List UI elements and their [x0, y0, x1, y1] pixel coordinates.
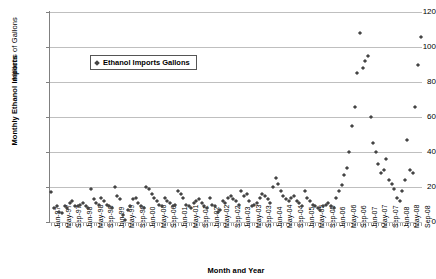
data-point — [400, 188, 404, 192]
gridline — [50, 117, 422, 118]
data-point — [390, 181, 394, 185]
data-point — [384, 157, 388, 161]
y-axis-title-units: Millions of Gallons — [10, 6, 19, 92]
data-point — [49, 190, 53, 194]
x-tick-mark — [357, 223, 358, 226]
data-point — [368, 115, 372, 119]
data-point — [247, 199, 251, 203]
data-point — [376, 162, 380, 166]
data-point — [334, 195, 338, 199]
x-tick-mark — [315, 223, 316, 226]
x-tick-mark — [136, 223, 137, 226]
x-tick-mark — [252, 223, 253, 226]
x-tick-mark — [210, 223, 211, 226]
x-tick-mark — [72, 223, 73, 226]
data-point — [273, 176, 277, 180]
x-tick-mark — [326, 223, 327, 226]
x-tick-mark — [231, 223, 232, 226]
data-point — [405, 138, 409, 142]
chart-legend: Ethanol Imports Gallons — [90, 55, 197, 70]
data-point — [411, 171, 415, 175]
gridline — [50, 12, 422, 13]
data-point — [128, 204, 132, 208]
data-point — [65, 206, 69, 210]
data-point — [142, 206, 146, 210]
legend-diamond-icon — [94, 60, 100, 66]
x-tick-mark — [273, 223, 274, 226]
data-point — [279, 188, 283, 192]
data-point — [118, 197, 122, 201]
data-point — [134, 195, 138, 199]
data-point — [239, 188, 243, 192]
data-point — [268, 201, 272, 205]
x-tick-mark — [104, 223, 105, 226]
x-tick-mark — [262, 223, 263, 226]
data-point — [70, 199, 74, 203]
x-tick-mark — [283, 223, 284, 226]
gridline — [50, 222, 422, 223]
x-tick-mark — [125, 223, 126, 226]
data-point — [361, 66, 365, 70]
x-tick-mark — [400, 223, 401, 226]
x-tick-mark — [167, 223, 168, 226]
data-point — [205, 206, 209, 210]
x-tick-label: Sep-08 — [424, 205, 431, 228]
data-point — [403, 178, 407, 182]
data-point — [308, 199, 312, 203]
data-point — [363, 59, 367, 63]
x-tick-mark — [294, 223, 295, 226]
data-point — [353, 104, 357, 108]
x-tick-mark — [83, 223, 84, 226]
gridline — [50, 187, 422, 188]
data-point — [300, 204, 304, 208]
x-tick-mark — [336, 223, 337, 226]
x-axis-title: Month and Year — [50, 266, 422, 275]
data-point — [189, 206, 193, 210]
data-point — [218, 208, 222, 212]
data-point — [355, 71, 359, 75]
data-point — [276, 181, 280, 185]
data-point — [173, 202, 177, 206]
x-tick-mark — [241, 223, 242, 226]
data-point — [366, 54, 370, 58]
x-tick-mark — [410, 223, 411, 226]
data-point — [358, 31, 362, 35]
data-point — [120, 213, 124, 217]
gridline — [50, 152, 422, 153]
x-tick-mark — [389, 223, 390, 226]
data-point — [419, 34, 423, 38]
data-point — [318, 208, 322, 212]
data-point — [60, 211, 64, 215]
x-tick-mark — [51, 223, 52, 226]
x-tick-mark — [220, 223, 221, 226]
x-tick-mark — [178, 223, 179, 226]
data-point — [160, 204, 164, 208]
data-point — [413, 104, 417, 108]
data-point — [86, 206, 90, 210]
x-tick-mark — [157, 223, 158, 226]
data-point — [181, 195, 185, 199]
x-tick-mark — [347, 223, 348, 226]
data-point — [207, 195, 211, 199]
data-point — [347, 150, 351, 154]
data-point — [331, 206, 335, 210]
x-tick-mark — [421, 223, 422, 226]
x-tick-mark — [305, 223, 306, 226]
x-tick-mark — [189, 223, 190, 226]
data-point — [271, 185, 275, 189]
gridline — [50, 47, 422, 48]
legend-label: Ethanol Imports Gallons — [103, 58, 190, 67]
x-tick-mark — [94, 223, 95, 226]
data-point — [342, 173, 346, 177]
x-tick-mark — [146, 223, 147, 226]
data-point — [255, 201, 259, 205]
x-tick-mark — [199, 223, 200, 226]
data-point — [397, 199, 401, 203]
ethanol-imports-scatter-chart: Monthly Ethanol Imports Millions of Gall… — [0, 0, 436, 279]
x-tick-mark — [62, 223, 63, 226]
data-point — [113, 185, 117, 189]
data-point — [237, 202, 241, 206]
data-point — [213, 204, 217, 208]
data-point — [337, 188, 341, 192]
data-point — [110, 206, 114, 210]
